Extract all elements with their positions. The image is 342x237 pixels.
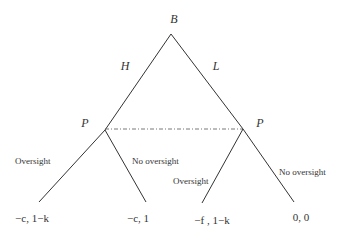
move-label-h: H	[120, 59, 131, 73]
root-label: B	[170, 12, 178, 26]
edge-right-no-oversight	[243, 129, 294, 202]
edge-left-oversight	[39, 130, 105, 202]
edge-l	[171, 34, 243, 129]
move-label-l: L	[212, 59, 220, 73]
decision-node-left-label: P	[80, 116, 89, 130]
payoff-4: 0, 0	[293, 211, 310, 223]
action-right-no-oversight: No oversight	[279, 167, 326, 177]
game-tree-diagram: B H L P P Oversight No oversight Oversig…	[0, 0, 342, 237]
payoff-3: −f , 1−k	[194, 214, 230, 226]
decision-node-right-label: P	[255, 116, 264, 130]
payoff-1: −c, 1−k	[15, 212, 49, 224]
action-left-no-oversight: No oversight	[132, 156, 179, 166]
edge-left-no-oversight	[105, 130, 146, 202]
payoff-2: −c, 1	[127, 212, 149, 224]
edge-h	[105, 34, 171, 130]
edge-right-oversight	[202, 129, 243, 203]
action-right-oversight: Oversight	[173, 176, 209, 186]
action-left-oversight: Oversight	[15, 156, 51, 166]
